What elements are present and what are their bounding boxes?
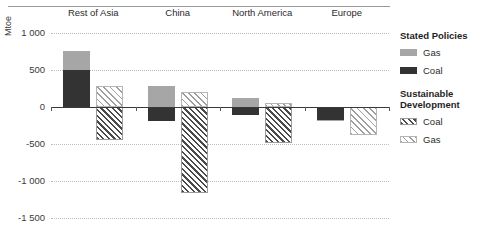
gridline <box>51 33 389 34</box>
legend-group-title-stated-policies: Stated Policies <box>400 30 478 42</box>
legend-swatch-hatch-dark-icon <box>400 118 417 125</box>
bar-sustainable-development-gas <box>181 92 208 107</box>
plot-area: 1 0005000-500-1 000-1 500Rest of AsiaChi… <box>51 33 389 218</box>
bar-stated-policies-gas <box>148 86 175 107</box>
legend-group-sustainable-development: Sustainable Development Coal Gas <box>400 88 478 145</box>
legend-item-sustainable-development-gas: Gas <box>400 135 478 145</box>
legend-group-title-line2: Development <box>400 99 478 111</box>
bar-stated-policies-coal <box>317 107 344 120</box>
legend-item-sustainable-development-coal: Coal <box>400 117 478 127</box>
legend-item-stated-policies-gas: Gas <box>400 48 478 58</box>
y-axis-tick-label: -1 000 <box>18 176 45 186</box>
bar-sustainable-development-coal <box>96 107 123 140</box>
legend-label-stated-policies-coal: Coal <box>423 66 443 76</box>
legend-swatch-solid-dark-icon <box>400 67 417 74</box>
category-label: Europe <box>305 7 390 18</box>
legend-swatch-hatch-light-icon <box>400 136 417 143</box>
bar-sustainable-development-gas <box>350 107 377 135</box>
gridline <box>51 181 389 182</box>
category-tick <box>136 107 137 111</box>
bar-stated-policies-gas <box>63 51 90 70</box>
bar-sustainable-development-coal <box>181 107 208 193</box>
category-tick <box>305 107 306 111</box>
category-tick <box>220 107 221 111</box>
gridline <box>51 218 389 219</box>
legend-swatch-solid-light-icon <box>400 49 417 56</box>
chart-root: Mtoe 1 0005000-500-1 000-1 500Rest of As… <box>0 0 478 232</box>
legend-group-title-line1: Sustainable <box>400 88 478 100</box>
legend-label-stated-policies-gas: Gas <box>423 48 440 58</box>
bar-stated-policies-coal <box>232 107 259 115</box>
bar-stated-policies-coal <box>63 70 90 107</box>
bar-stated-policies-gas <box>232 98 259 107</box>
legend-label-sustainable-development-coal: Coal <box>423 117 443 127</box>
chart-legend: Stated Policies Gas Coal Sustainable Dev… <box>400 30 478 153</box>
gridline <box>51 70 389 71</box>
bar-sustainable-development-coal <box>265 107 292 143</box>
category-tick <box>51 107 52 111</box>
category-tick <box>389 107 390 111</box>
category-label: China <box>136 7 221 18</box>
legend-item-stated-policies-coal: Coal <box>400 66 478 76</box>
bar-sustainable-development-gas <box>96 86 123 107</box>
y-axis-tick-label: 0 <box>40 102 45 112</box>
legend-label-sustainable-development-gas: Gas <box>423 135 440 145</box>
y-axis-tick-label: 500 <box>29 65 45 75</box>
category-label: Rest of Asia <box>51 7 136 18</box>
y-axis-tick-label: -1 500 <box>18 213 45 223</box>
y-axis-tick-label: 1 000 <box>21 28 45 38</box>
category-label: North America <box>220 7 305 18</box>
y-axis-title: Mtoe <box>3 16 13 36</box>
bar-stated-policies-gas <box>317 120 344 122</box>
bar-stated-policies-coal <box>148 107 175 121</box>
legend-group-title-sustainable-development: Sustainable Development <box>400 88 478 111</box>
y-axis-tick-label: -500 <box>26 139 45 149</box>
gridline <box>51 144 389 145</box>
